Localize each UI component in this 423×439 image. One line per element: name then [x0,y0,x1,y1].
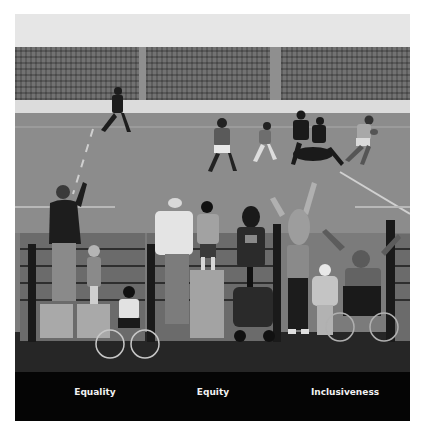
players-tackle [291,111,344,167]
caption-band: Equality Equity Inclusiveness [15,372,410,421]
ball-carrier [345,116,378,166]
label-inclusiveness: Inclusiveness [285,387,405,397]
label-equity: Equity [153,387,273,397]
label-equality: Equality [35,387,155,397]
child-in-cap [312,264,338,335]
player-red-jersey [208,118,237,172]
illustration-frame: Equality Equity Inclusiveness [15,14,410,421]
referee [101,87,131,132]
scene-figures [15,14,410,421]
player-running [253,122,277,162]
